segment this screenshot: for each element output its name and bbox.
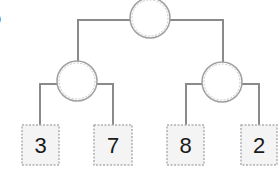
edge-left-leaf-3 xyxy=(40,84,57,125)
tree-diagram: 6 3 7 8 2 xyxy=(0,0,278,172)
leaf-box-1: 3 xyxy=(22,125,59,165)
leaf-box-3: 8 xyxy=(167,125,204,165)
leaf-box-4: 2 xyxy=(241,125,277,165)
clipped-label: 6 xyxy=(0,1,2,32)
edge-root-right xyxy=(170,20,223,63)
leaf-value: 7 xyxy=(107,133,119,158)
root-node[interactable] xyxy=(130,0,170,38)
left-node[interactable] xyxy=(57,61,97,101)
leaf-value: 3 xyxy=(34,133,46,158)
right-node[interactable] xyxy=(202,62,242,102)
edge-right-leaf-2 xyxy=(242,84,259,125)
edge-root-left xyxy=(78,20,130,62)
leaf-value: 8 xyxy=(179,133,191,158)
edge-right-leaf-8 xyxy=(186,84,202,125)
edge-left-leaf-7 xyxy=(97,84,113,125)
leaf-box-2: 7 xyxy=(94,125,132,165)
leaf-value: 2 xyxy=(253,133,265,158)
